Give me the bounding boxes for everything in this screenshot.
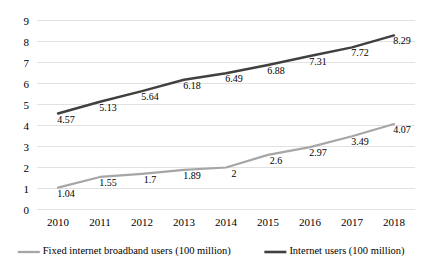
data-label: 5.64 xyxy=(141,91,159,102)
y-axis-tick-label: 4 xyxy=(24,120,30,132)
y-axis-tick-label: 8 xyxy=(24,36,30,48)
data-labels-group: 1.041.551.71.8922.62.973.494.074.575.135… xyxy=(57,35,411,198)
x-axis-tick-label: 2013 xyxy=(173,216,196,228)
y-axis-tick-label: 1 xyxy=(24,183,30,195)
line-chart: 0123456789 20102011201220132014201520162… xyxy=(0,0,438,268)
x-axis-tick-label: 2018 xyxy=(383,216,406,228)
y-axis-tick-label: 6 xyxy=(24,78,30,90)
data-label: 1.04 xyxy=(57,188,75,199)
legend-label: Fixed internet broadband users (100 mill… xyxy=(43,245,232,257)
data-label: 7.72 xyxy=(351,47,369,58)
data-label: 8.29 xyxy=(393,35,411,46)
y-axis-tick-label: 0 xyxy=(24,204,30,216)
data-label: 5.13 xyxy=(99,102,117,113)
x-axis-tick-label: 2014 xyxy=(215,216,238,228)
data-label: 6.49 xyxy=(225,73,243,84)
data-label: 2.97 xyxy=(309,147,327,158)
data-label: 3.49 xyxy=(351,136,369,147)
data-label: 4.07 xyxy=(393,124,411,135)
x-axis-tick-label: 2011 xyxy=(89,216,111,228)
y-axis-tick-label: 5 xyxy=(24,99,30,111)
data-label: 2 xyxy=(232,168,237,179)
data-label: 1.89 xyxy=(183,170,201,181)
x-axis-tick-label: 2017 xyxy=(341,216,364,228)
chart-canvas: 0123456789 20102011201220132014201520162… xyxy=(0,0,438,268)
y-axis-tick-label: 7 xyxy=(24,57,30,69)
data-label: 1.7 xyxy=(144,174,157,185)
y-axis-tick-labels: 0123456789 xyxy=(24,15,30,216)
x-axis-tick-label: 2016 xyxy=(299,216,322,228)
x-axis-tick-label: 2015 xyxy=(257,216,280,228)
data-label: 7.31 xyxy=(309,56,327,67)
data-label: 6.88 xyxy=(267,65,285,76)
legend-label: Internet users (100 million) xyxy=(289,245,405,257)
x-axis-tick-label: 2010 xyxy=(47,216,70,228)
x-axis-tick-labels: 201020112012201320142015201620172018 xyxy=(47,216,406,228)
data-label: 1.55 xyxy=(99,177,117,188)
legend: Fixed internet broadband users (100 mill… xyxy=(18,245,405,257)
data-label: 4.57 xyxy=(57,114,75,125)
y-axis-tick-label: 3 xyxy=(24,141,30,153)
data-label: 2.6 xyxy=(270,155,283,166)
data-label: 6.18 xyxy=(183,80,201,91)
y-axis-tick-label: 2 xyxy=(24,162,30,174)
y-axis-tick-label: 9 xyxy=(24,15,30,27)
x-axis-tick-label: 2012 xyxy=(131,216,153,228)
